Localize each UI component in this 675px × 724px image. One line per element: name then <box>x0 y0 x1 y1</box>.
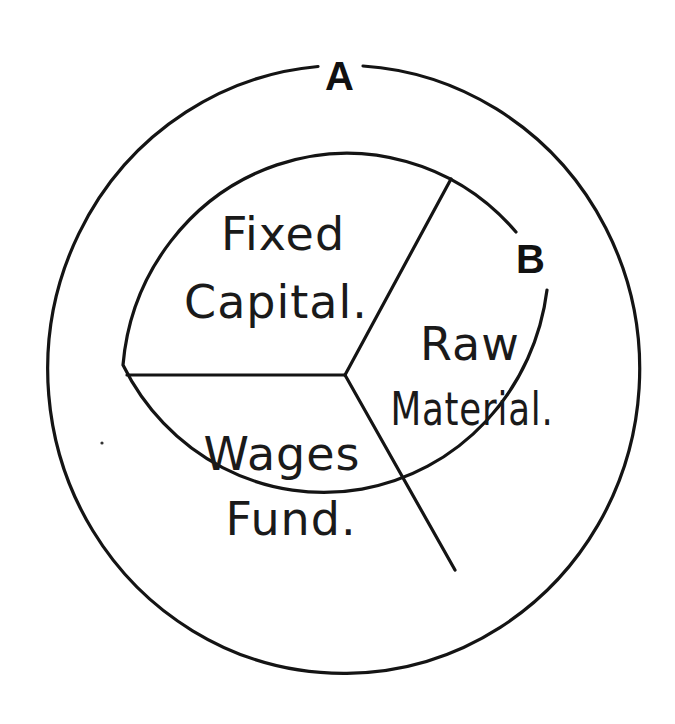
inner-circle-label: B <box>516 237 545 281</box>
segment-raw-material: Raw Material. <box>391 317 554 436</box>
outer-circle-a <box>48 66 640 673</box>
segment-wages-fund-line-1: Wages <box>203 427 360 481</box>
segment-wages-fund: Wages Fund. <box>203 427 360 546</box>
segment-wages-fund-line-2: Fund. <box>225 492 356 546</box>
segment-raw-material-line-1: Raw <box>420 317 520 371</box>
segment-raw-material-line-2: Material. <box>391 382 554 436</box>
segment-fixed-capital-line-2: Capital. <box>184 275 368 329</box>
outer-circle-arc <box>48 66 640 673</box>
capital-circle-diagram: A B Fixed Capital. Raw Material. Wages F… <box>0 0 675 724</box>
outer-circle-label: A <box>325 54 354 98</box>
print-speck <box>100 441 103 444</box>
segment-fixed-capital: Fixed Capital. <box>184 207 368 329</box>
segment-fixed-capital-line-1: Fixed <box>221 207 345 261</box>
